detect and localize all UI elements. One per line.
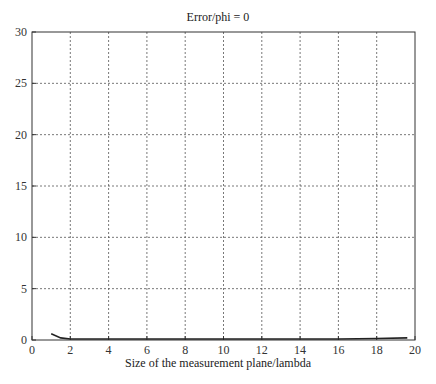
y-tick-label: 15 [15,179,27,193]
x-tick-label: 2 [67,343,73,357]
x-tick-label: 8 [182,343,188,357]
line-chart: 02468101214161820051015202530 [0,0,436,384]
x-tick-label: 0 [29,343,35,357]
y-tick-label: 5 [21,282,27,296]
y-tick-label: 25 [15,76,27,90]
x-tick-label: 6 [144,343,150,357]
x-tick-label: 12 [256,343,268,357]
data-line [51,334,407,339]
x-tick-label: 20 [409,343,421,357]
x-tick-label: 4 [106,343,112,357]
y-tick-label: 20 [15,128,27,142]
y-tick-label: 30 [15,25,27,39]
x-tick-label: 16 [332,343,344,357]
x-tick-label: 10 [218,343,230,357]
x-tick-label: 18 [371,343,383,357]
y-tick-label: 10 [15,230,27,244]
x-tick-label: 14 [294,343,306,357]
x-axis-label: Size of the measurement plane/lambda [0,356,436,371]
y-tick-label: 0 [21,333,27,347]
